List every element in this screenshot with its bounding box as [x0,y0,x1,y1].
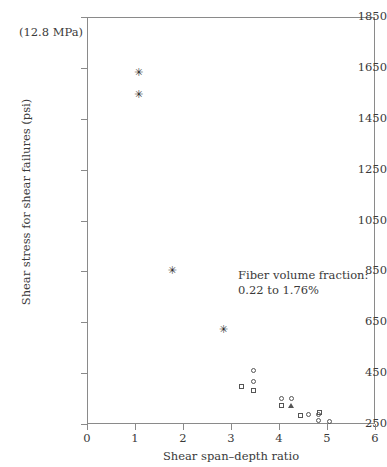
data-point-circle [251,379,256,384]
x-tick-mark [327,424,328,430]
data-point-star [219,326,226,333]
x-tick-mark [375,424,376,430]
x-tick-mark [279,424,280,430]
data-point-star [168,267,175,274]
y-axis-title: Shear stress for shear failures (psi) [19,72,33,332]
x-axis-title: Shear span–depth ratio [87,449,375,463]
annotation-line-1: 0.22 to 1.76% [238,283,368,298]
y-tick-mark [81,373,88,374]
data-point-square [279,403,284,408]
data-point-circle [289,396,294,401]
data-point-circle [279,396,284,401]
y-tick-label: 1050 [311,215,387,227]
y-tick-mark [81,322,88,323]
y-tick-label: 1850 [311,11,387,23]
data-point-square [298,413,303,418]
x-tick-mark [231,424,232,430]
data-point-star [134,69,141,76]
annotation-line-0: Fiber volume fraction: [238,268,368,283]
y-tick-mark [81,271,88,272]
scatter-chart: (12.8 MPa) Shear stress for shear failur… [0,0,387,467]
x-tick-label: 5 [312,432,342,444]
x-tick-label: 2 [168,432,198,444]
y-tick-mark [81,119,88,120]
x-tick-mark [135,424,136,430]
x-tick-mark [87,424,88,430]
y-tick-label: 1650 [311,62,387,74]
y-tick-label: 650 [311,316,387,328]
x-tick-mark [183,424,184,430]
data-point-star [134,91,141,98]
data-point-square [317,410,322,415]
data-point-triangle [288,403,294,408]
chart-annotation: Fiber volume fraction:0.22 to 1.76% [238,268,368,297]
y-tick-mark [81,17,88,18]
y-tick-mark [81,170,88,171]
x-tick-label: 4 [264,432,294,444]
y-axis-top-note: (12.8 MPa) [5,26,83,38]
x-tick-label: 0 [72,432,102,444]
data-point-square [251,388,256,393]
data-point-circle [251,368,256,373]
x-tick-label: 1 [120,432,150,444]
y-tick-label: 450 [311,367,387,379]
y-tick-label: 1250 [311,164,387,176]
y-tick-label: 1450 [311,113,387,125]
y-tick-mark [81,221,88,222]
x-tick-label: 3 [216,432,246,444]
y-tick-mark [81,68,88,69]
x-tick-label: 6 [360,432,387,444]
data-point-square [239,384,244,389]
